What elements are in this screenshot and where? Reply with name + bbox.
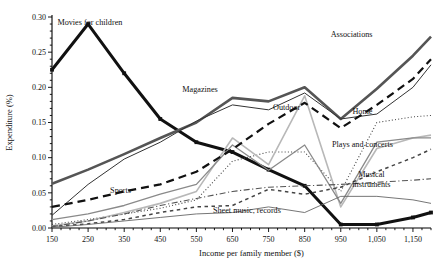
x-tick-label: 250 (82, 235, 94, 244)
data-marker (50, 68, 54, 72)
x-axis-title: Income per family member ($) (199, 248, 304, 258)
y-tick-label: 0.05 (32, 189, 46, 198)
data-marker (122, 71, 126, 75)
data-marker (194, 140, 198, 144)
y-axis-title: Expenditure (%) (4, 94, 14, 151)
series-line-associations (52, 37, 431, 184)
x-tick-label: 150 (46, 235, 58, 244)
x-tick-label: 1,150 (404, 235, 422, 244)
y-tick-label: 0.15 (32, 118, 46, 127)
x-tick-label: 950 (335, 235, 347, 244)
y-tick-label: 0.00 (32, 224, 46, 233)
series-label-plays-and-concerts: Plays and concerts (332, 140, 393, 149)
data-marker (411, 216, 415, 220)
data-marker (375, 223, 379, 227)
series-label-home: Home (352, 107, 372, 116)
series-label-sheet-music-records: Sheet music, records (213, 206, 281, 215)
x-tick-label: 550 (190, 235, 202, 244)
y-tick-label: 0.10 (32, 153, 46, 162)
series-label-sports: Sports (110, 186, 131, 195)
data-marker (339, 223, 343, 227)
x-tick-label: 750 (263, 235, 275, 244)
series-label-outdoor: Outdoor (273, 103, 301, 112)
line-chart: 0.000.050.100.150.200.250.30150250350450… (0, 0, 435, 269)
y-tick-label: 0.20 (32, 83, 46, 92)
series-label-associations: Associations (331, 30, 373, 39)
data-marker (429, 211, 433, 215)
x-tick-label: 450 (154, 235, 166, 244)
x-tick-label: 650 (226, 235, 238, 244)
series-label-magazines: Magazines (182, 85, 217, 94)
x-tick-label: 1,050 (368, 235, 386, 244)
x-tick-label: 350 (118, 235, 130, 244)
y-tick-label: 0.30 (32, 13, 46, 22)
series-label-musical-instruments: Musicalinstruments (352, 170, 390, 189)
chart-container: 0.000.050.100.150.200.250.30150250350450… (0, 0, 435, 269)
data-marker (158, 117, 162, 121)
y-tick-label: 0.25 (32, 48, 46, 57)
series-label-movies-for-children: Movies for children (57, 18, 122, 27)
x-tick-label: 850 (299, 235, 311, 244)
series-lines (50, 22, 433, 227)
